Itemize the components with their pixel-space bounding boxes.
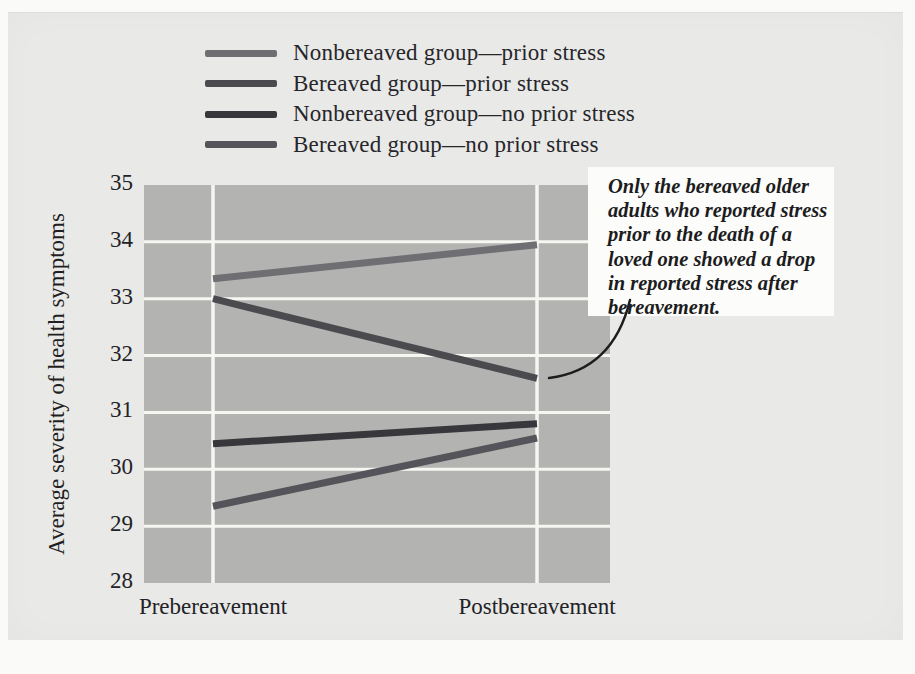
legend-swatch-bereaved-prior-stress <box>205 80 277 87</box>
legend-item: Nonbereaved group—no prior stress <box>205 99 635 130</box>
x-axis-label-prebereavement: Prebereavement <box>93 594 333 620</box>
y-tick-label: 30 <box>61 453 133 481</box>
legend-swatch-nonbereaved-prior-stress <box>205 50 277 57</box>
y-tick-label: 32 <box>61 340 133 368</box>
y-tick-label: 28 <box>61 567 133 595</box>
y-axis-title: Average severity of health symptoms <box>44 213 70 555</box>
annotation-callout: Only the bereaved older adults who repor… <box>588 167 834 316</box>
x-axis-label-postbereavement: Postbereavement <box>417 594 657 620</box>
legend-swatch-nonbereaved-no-prior-stress <box>205 111 277 118</box>
legend-item: Bereaved group—no prior stress <box>205 130 635 161</box>
legend-label: Nonbereaved group—no prior stress <box>293 101 635 127</box>
y-tick-label: 35 <box>61 169 133 197</box>
legend-label: Nonbereaved group—prior stress <box>293 40 606 66</box>
legend-item: Bereaved group—prior stress <box>205 69 635 100</box>
y-tick-label: 33 <box>61 283 133 311</box>
legend: Nonbereaved group—prior stress Bereaved … <box>205 38 635 160</box>
legend-swatch-bereaved-no-prior-stress <box>205 141 277 148</box>
figure: Nonbereaved group—prior stress Bereaved … <box>0 0 915 674</box>
y-tick-label: 31 <box>61 396 133 424</box>
legend-item: Nonbereaved group—prior stress <box>205 38 635 69</box>
y-tick-label: 34 <box>61 226 133 254</box>
legend-label: Bereaved group—no prior stress <box>293 132 599 158</box>
y-tick-label: 29 <box>61 510 133 538</box>
legend-label: Bereaved group—prior stress <box>293 71 569 97</box>
